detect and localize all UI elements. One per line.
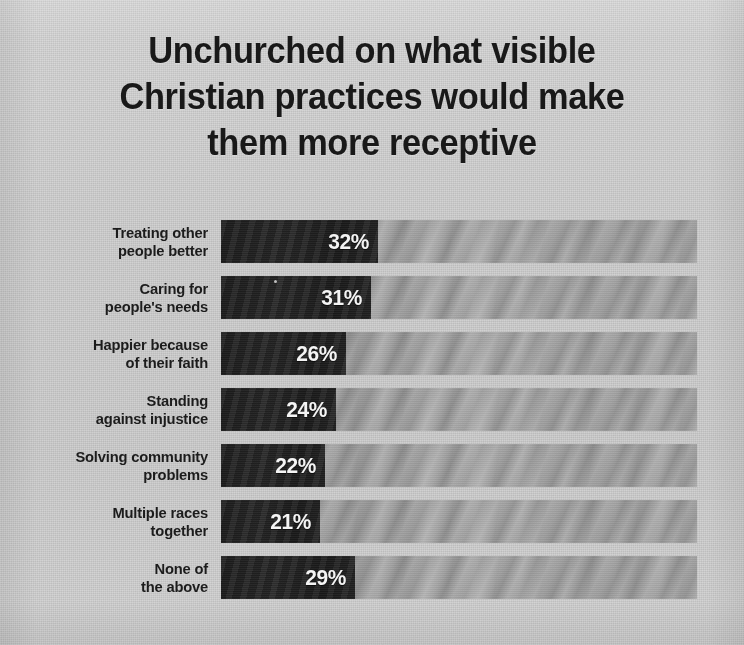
chart-row: None ofthe above29%: [0, 550, 744, 605]
category-label: Happier becauseof their faith: [18, 326, 208, 381]
chart-row: Solving communityproblems22%: [0, 438, 744, 493]
value-bar: 24%: [221, 388, 336, 431]
horizontal-bar-chart: Treating otherpeople better32%Caring for…: [0, 214, 744, 626]
category-label-line: Solving community: [75, 448, 208, 466]
bar-value-label: 26%: [296, 341, 337, 367]
chart-row: Caring forpeople's needs31%: [0, 270, 744, 325]
category-label-line: Multiple races: [112, 504, 208, 522]
category-label-line: Happier because: [93, 336, 208, 354]
chart-row: Standingagainst injustice24%: [0, 382, 744, 437]
chart-row: Treating otherpeople better32%: [0, 214, 744, 269]
bar-value-label: 24%: [286, 397, 327, 423]
chart-row: Multiple racestogether21%: [0, 494, 744, 549]
category-label-line: None of: [155, 560, 208, 578]
title-line-3: them more receptive: [73, 120, 672, 166]
category-label-line: people better: [118, 242, 208, 260]
bar-value-label: 32%: [328, 229, 369, 255]
value-bar: 31%: [221, 276, 371, 319]
category-label: Treating otherpeople better: [18, 214, 208, 269]
category-label-line: Standing: [147, 392, 208, 410]
value-bar: 22%: [221, 444, 325, 487]
scan-speck: [274, 280, 277, 283]
value-bar: 32%: [221, 220, 378, 263]
bar-value-label: 29%: [305, 565, 346, 591]
category-label: Standingagainst injustice: [18, 382, 208, 437]
bar-value-label: 31%: [321, 285, 362, 311]
value-bar: 26%: [221, 332, 346, 375]
category-label: None ofthe above: [18, 550, 208, 605]
category-label: Multiple racestogether: [18, 494, 208, 549]
category-label-line: people's needs: [105, 298, 208, 316]
category-label-line: of their faith: [126, 354, 208, 372]
category-label-line: the above: [141, 578, 208, 596]
category-label-line: problems: [143, 466, 208, 484]
category-label: Caring forpeople's needs: [18, 270, 208, 325]
category-label-line: Caring for: [140, 280, 208, 298]
category-label-line: against injustice: [96, 410, 208, 428]
category-label-line: Treating other: [112, 224, 208, 242]
value-bar: 21%: [221, 500, 320, 543]
category-label-line: together: [151, 522, 208, 540]
bar-value-label: 22%: [275, 453, 316, 479]
chart-row: Happier becauseof their faith26%: [0, 326, 744, 381]
bar-value-label: 21%: [270, 509, 311, 535]
category-label: Solving communityproblems: [18, 438, 208, 493]
title-line-2: Christian practices would make: [73, 74, 672, 120]
page-title: Unchurched on what visible Christian pra…: [73, 28, 672, 166]
title-line-1: Unchurched on what visible: [73, 28, 672, 74]
value-bar: 29%: [221, 556, 355, 599]
chart-poster: Unchurched on what visible Christian pra…: [0, 0, 744, 645]
